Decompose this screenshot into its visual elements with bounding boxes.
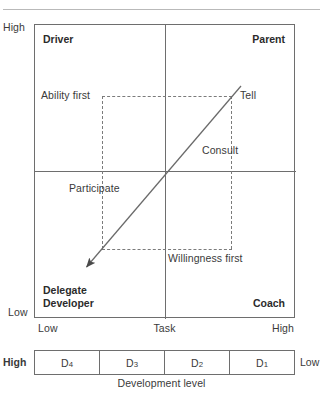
annotation-tell: Tell <box>240 89 256 101</box>
development-level-bar: D4 D3 D2 D1 <box>34 350 295 375</box>
quadrant-label-delegate-line1: Delegate <box>43 284 94 297</box>
dev-cell-d3-subscript: 3 <box>134 360 138 369</box>
quadrant-label-delegate-line2: Developer <box>43 297 94 310</box>
annotation-ability-first: Ability first <box>41 89 90 101</box>
development-level-cell-d2: D2 <box>165 351 230 374</box>
progression-arrow <box>35 25 296 319</box>
annotation-participate: Participate <box>69 182 120 194</box>
header-divider <box>3 9 320 10</box>
dev-cell-d2-letter: D <box>191 357 199 369</box>
dev-cell-d4-subscript: 4 <box>69 360 73 369</box>
development-level-caption: Development level <box>0 377 323 389</box>
dev-cell-d1-subscript: 1 <box>264 360 268 369</box>
y-axis-high-label: High <box>3 21 25 33</box>
development-level-bar-row: High D4 D3 D2 D1 Low <box>0 350 323 375</box>
annotation-willingness-first: Willingness first <box>168 252 243 264</box>
x-axis-tick-labels: Low Task High <box>34 322 295 336</box>
annotation-consult: Consult <box>202 144 238 156</box>
quadrant-matrix: Driver Parent Delegate Developer Coach A… <box>34 24 295 318</box>
y-axis-low-label: Low <box>8 306 28 318</box>
development-level-cell-d4: D4 <box>35 351 100 374</box>
dev-cell-d2-subscript: 2 <box>199 360 203 369</box>
dev-cell-d1-letter: D <box>256 357 264 369</box>
quadrant-label-driver: Driver <box>43 33 73 46</box>
x-axis-high-label: High <box>272 322 294 334</box>
dev-cell-d3-letter: D <box>126 357 134 369</box>
dev-cell-d4-letter: D <box>61 357 69 369</box>
development-level-cell-d3: D3 <box>100 351 165 374</box>
quadrant-label-coach: Coach <box>253 297 285 310</box>
development-level-low-label: Low <box>300 356 319 368</box>
development-level-high-label: High <box>3 356 26 368</box>
quadrant-label-delegate-developer: Delegate Developer <box>43 284 94 309</box>
development-level-cell-d1: D1 <box>230 351 294 374</box>
quadrant-label-parent: Parent <box>252 33 285 46</box>
x-axis-title: Task <box>34 322 295 334</box>
